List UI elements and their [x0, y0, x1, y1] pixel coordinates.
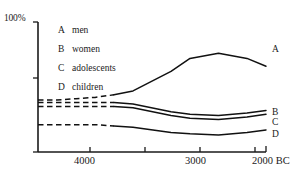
- legend-key-c: C: [58, 63, 64, 73]
- legend-label-children: children: [72, 82, 103, 92]
- series-end-label-adolescents: C: [272, 117, 278, 127]
- line-chart-figure: 100% 4000 3000 2000 BC A men B women C a…: [0, 0, 300, 173]
- legend-key-d: D: [58, 82, 65, 92]
- legend-key-a: A: [58, 25, 65, 35]
- series-line-men-estimated: [38, 95, 114, 100]
- series-line-children-estimated: [38, 125, 114, 126]
- legend-label-men: men: [72, 25, 88, 35]
- series-line-children: [114, 126, 266, 135]
- x-axis-tick-label-4000: 4000: [74, 155, 95, 166]
- series-end-label-women: B: [272, 107, 278, 117]
- legend-key-b: B: [58, 44, 64, 54]
- x-axis-tick-label-2000-bc: 2000 BC: [252, 155, 290, 166]
- legend-label-adolescents: adolescents: [72, 63, 116, 73]
- chart-plot-area: [0, 0, 300, 173]
- series-line-men: [114, 53, 266, 95]
- y-axis-max-label: 100%: [4, 13, 25, 23]
- legend-label-women: women: [72, 44, 100, 54]
- series-end-label-men: A: [272, 44, 279, 54]
- x-axis-tick-label-3000: 3000: [185, 155, 206, 166]
- axes-group: [33, 22, 266, 152]
- series-end-label-children: D: [272, 129, 279, 139]
